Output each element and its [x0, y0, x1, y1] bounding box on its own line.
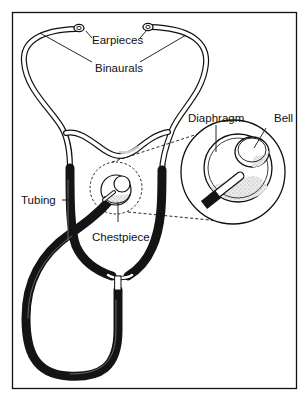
right-earpiece — [143, 23, 153, 30]
stethoscope-diagram: Earpieces Binaurals Diaphragm Bell Tubin… — [0, 0, 308, 397]
chestpiece — [90, 162, 142, 214]
label-tubing: Tubing — [21, 194, 56, 206]
label-binaurals: Binaurals — [95, 62, 143, 74]
label-chestpiece: Chestpiece — [92, 231, 150, 243]
bell — [235, 137, 269, 167]
left-earpiece — [74, 24, 84, 31]
label-bell: Bell — [274, 112, 293, 124]
binaurals — [24, 27, 206, 172]
label-diaphragm: Diaphragm — [188, 112, 244, 124]
stem-connector — [115, 276, 121, 290]
chestpiece-detail — [181, 120, 285, 224]
tubing-right-branch — [128, 170, 162, 276]
earpieces — [74, 23, 153, 31]
label-earpieces: Earpieces — [92, 34, 143, 46]
